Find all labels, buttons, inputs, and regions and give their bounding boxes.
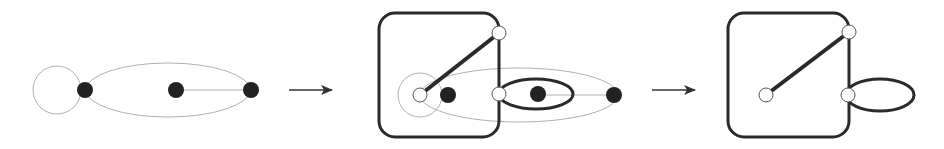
loop-edge — [33, 66, 81, 114]
hollow-node — [492, 87, 506, 101]
black-node — [77, 82, 93, 98]
hollow-node — [841, 88, 855, 102]
hollow-node — [842, 25, 856, 39]
hollow-node — [413, 88, 427, 102]
rounded-box — [379, 13, 499, 137]
black-node — [440, 87, 456, 103]
diagram-canvas — [0, 0, 944, 149]
thick-loop — [846, 79, 914, 111]
stage-2 — [379, 13, 622, 137]
rounded-box — [728, 13, 849, 137]
black-node — [530, 86, 546, 102]
stage-3 — [728, 13, 914, 137]
thick-edge — [766, 32, 849, 95]
stage-1 — [33, 63, 259, 117]
hollow-node — [759, 88, 773, 102]
black-node — [243, 82, 259, 98]
black-node — [606, 87, 622, 103]
hollow-node — [492, 26, 506, 40]
thick-edge — [420, 33, 499, 95]
black-node — [168, 82, 184, 98]
